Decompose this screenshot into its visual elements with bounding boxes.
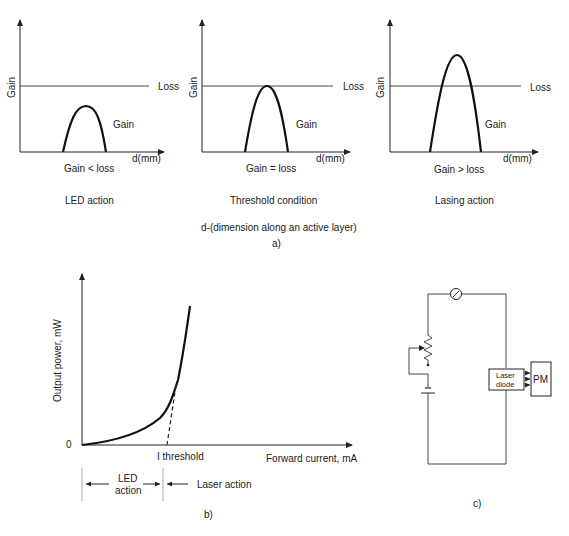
panel-c: Laser diode PM c) [409,289,551,510]
laser-diode-figure: Gain Loss Gain d(mm) Gain < loss LED act… [0,0,569,536]
gain-label: Gain [296,119,317,130]
output-power-curve [82,306,190,445]
x-axis-label: d(mm) [132,153,161,164]
loss-label: Loss [530,82,551,93]
gain-label: Gain [113,119,134,130]
gain-curve [430,55,481,152]
condition-label: Gain > loss [434,164,484,175]
led-region-label-line2: action [115,485,142,496]
condition-label: Gain = loss [246,163,296,174]
x-axis-label: Forward current, mA [266,453,357,464]
variable-resistor-icon [424,335,432,360]
loss-label: Loss [343,81,364,92]
gain-curve [245,86,288,152]
loss-label: Loss [158,81,179,92]
threshold-extrapolation-line [167,385,176,445]
panel-a-subtitle: d-(dimension along an active layer) [201,222,357,233]
gain-label: Gain [485,119,506,130]
panel-b-caption: b) [204,509,213,520]
y-axis-label: Output power, mW [52,319,63,402]
wiper-wire [409,348,428,374]
y-axis-label: Gain [188,77,199,98]
plot-led-action: Gain Loss Gain d(mm) Gain < loss LED act… [6,20,179,206]
laser-region-label: Laser action [197,479,251,490]
panel-a-caption: a) [272,238,281,249]
laser-diode-label-line1: Laser [496,371,515,380]
x-axis-label: d(mm) [316,153,345,164]
y-axis-label: Gain [6,77,17,98]
power-meter-label: PM [533,374,548,385]
plot-lasing-action: Gain Loss Gain d(mm) Gain > loss Lasing … [375,20,551,206]
condition-label: Gain < loss [64,163,114,174]
panel-c-caption: c) [473,498,481,509]
threshold-label: I threshold [157,451,204,462]
gain-curve [63,106,106,152]
x-axis-label: d(mm) [503,153,532,164]
plot-title: LED action [65,195,114,206]
laser-diode-label-line2: diode [496,380,514,389]
panel-b: Output power, mW 0 I threshold Forward c… [52,274,357,520]
led-region-label-line1: LED [118,473,137,484]
plot-title: Threshold condition [230,195,317,206]
panel-a: Gain Loss Gain d(mm) Gain < loss LED act… [6,20,551,249]
plot-title: Lasing action [435,195,494,206]
y-axis-label: Gain [375,77,386,98]
origin-label: 0 [66,439,72,450]
plot-threshold-condition: Gain Loss Gain d(mm) Gain = loss Thresho… [188,20,364,206]
resistor-terminal [427,364,430,367]
